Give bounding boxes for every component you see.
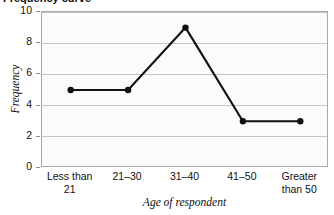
y-tick-label: 2 [4, 130, 32, 141]
data-point [297, 118, 303, 124]
y-tick-mark [36, 11, 40, 12]
y-tick-label: 10 [4, 5, 32, 16]
y-axis-title: Frequency [8, 11, 22, 168]
y-tick-label: 8 [4, 36, 32, 47]
y-tick-label: 6 [4, 67, 32, 78]
data-point [182, 24, 188, 30]
y-tick-mark [36, 167, 40, 168]
data-point [240, 118, 246, 124]
plot-area [41, 11, 328, 167]
data-series-frequency [42, 12, 329, 168]
y-tick-label: 0 [4, 161, 32, 172]
y-tick-label: 4 [4, 99, 32, 110]
y-tick-mark [36, 105, 40, 106]
y-tick-mark [36, 73, 40, 74]
x-axis-title: Age of respondent [41, 196, 328, 208]
y-tick-mark [36, 42, 40, 43]
frequency-curve-figure: Frequency curve Frequency 0246810 Less t… [0, 0, 334, 215]
series-line [71, 28, 301, 122]
data-point [68, 87, 74, 93]
series-markers [68, 24, 304, 124]
data-point [125, 87, 131, 93]
x-tick-label: Greaterthan 50 [261, 170, 334, 195]
y-tick-mark [36, 136, 40, 137]
